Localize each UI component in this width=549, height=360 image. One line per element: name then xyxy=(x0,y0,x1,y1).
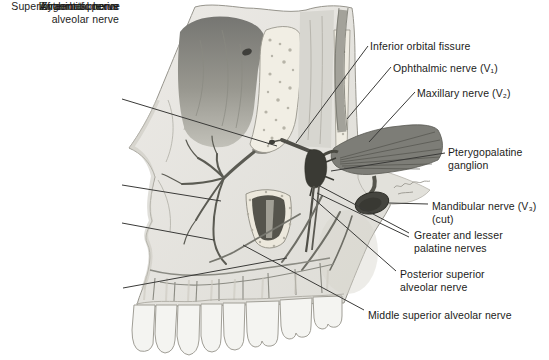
label-ophthalmic-nerve-v1: Ophthalmic nerve (V₁) xyxy=(393,62,498,75)
label-maxillary-nerve-v2: Maxillary nerve (V₂) xyxy=(417,87,511,100)
label-inferior-orbital-fissure: Inferior orbital fissure xyxy=(370,40,470,53)
anatomy-illustration xyxy=(0,0,549,360)
label-superior-dental-plexus: Superior dental plexus xyxy=(0,0,118,13)
label-greater-lesser-palatine-nerves: Greater and lesser palatine nerves xyxy=(414,229,503,254)
label-pterygopalatine-ganglion: Pterygopalatine ganglion xyxy=(448,146,522,171)
anatomy-figure: Zygomatic nerve Infraorbital nerve Anter… xyxy=(0,0,549,360)
label-posterior-superior-alveolar-nerve: Posterior superior alveolar nerve xyxy=(400,268,485,293)
label-middle-superior-alveolar-nerve: Middle superior alveolar nerve xyxy=(368,309,512,322)
label-mandibular-nerve-v3-cut: Mandibular nerve (V₃) (cut) xyxy=(432,200,536,225)
